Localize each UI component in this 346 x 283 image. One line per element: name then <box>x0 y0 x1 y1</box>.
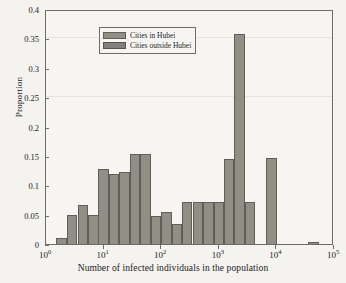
x-tick-mark <box>160 245 161 249</box>
histogram-bar <box>88 215 98 244</box>
legend-item-cities-outside-hubei: Cities outside Hubei <box>103 41 191 50</box>
y-tick-mark <box>45 128 49 129</box>
histogram-bar <box>203 202 213 244</box>
x-tick-mark <box>275 245 276 249</box>
x-tick-label: 102 <box>154 248 166 260</box>
histogram-bar <box>78 205 88 244</box>
histogram-bar <box>266 158 276 244</box>
y-tick-mark <box>45 157 49 158</box>
histogram-bar <box>234 34 244 244</box>
legend-label-cities-in-hubei: Cities in Hubei <box>130 32 175 40</box>
legend: Cities in Hubei Cities outside Hubei <box>99 27 196 54</box>
legend-label-cities-outside-hubei: Cities outside Hubei <box>130 42 191 50</box>
y-tick-label: 0.25 <box>24 94 39 102</box>
x-tick-label: 103 <box>212 248 224 260</box>
histogram-bar <box>109 174 119 244</box>
y-tick-label: 0.4 <box>28 6 39 14</box>
x-tick-label: 100 <box>39 248 51 260</box>
y-tick-mark <box>45 245 49 246</box>
y-tick-label: 0.2 <box>28 124 39 132</box>
y-tick-mark <box>45 39 49 40</box>
legend-item-cities-in-hubei: Cities in Hubei <box>103 31 191 40</box>
histogram-bar <box>214 202 224 244</box>
histogram-bar <box>172 224 182 244</box>
y-tick-mark <box>45 186 49 187</box>
histogram-bar <box>151 216 161 244</box>
y-tick-mark <box>45 10 49 11</box>
y-tick-label: 0.35 <box>24 35 39 43</box>
x-tick-mark <box>333 245 334 249</box>
y-tick-mark <box>45 216 49 217</box>
y-tick-mark <box>45 69 49 70</box>
legend-swatch-cities-outside-hubei <box>103 42 126 49</box>
x-tick-label: 104 <box>269 248 281 260</box>
histogram-bar <box>67 215 77 244</box>
histogram-bar <box>193 202 203 244</box>
histogram-bar <box>130 154 140 244</box>
histogram-bar <box>140 154 150 244</box>
x-tick-mark <box>103 245 104 249</box>
y-axis-tick-labels: 00.050.10.150.20.250.30.350.4 <box>0 0 45 255</box>
y-tick-label: 0.1 <box>28 182 39 190</box>
plot-area: Cities in Hubei Cities outside Hubei <box>45 10 333 245</box>
histogram-bar <box>245 202 255 244</box>
histogram-bar <box>224 159 234 244</box>
histogram-bar <box>182 202 192 244</box>
histogram-bar <box>119 172 129 244</box>
gridline <box>46 96 332 97</box>
legend-swatch-cities-in-hubei <box>103 32 126 39</box>
y-tick-label: 0.05 <box>24 212 39 220</box>
x-axis-title: Number of infected individuals in the po… <box>0 263 346 273</box>
histogram-bar <box>56 238 66 244</box>
histogram-bar <box>98 169 108 244</box>
histogram-bar <box>308 242 318 244</box>
y-tick-mark <box>45 98 49 99</box>
figure: Proportion 00.050.10.150.20.250.30.350.4… <box>0 0 346 283</box>
histogram-bar <box>161 212 171 244</box>
y-tick-label: 0.15 <box>24 153 39 161</box>
x-tick-label: 101 <box>96 248 108 260</box>
y-tick-label: 0.3 <box>28 65 39 73</box>
x-tick-label: 105 <box>327 248 339 260</box>
x-tick-mark <box>218 245 219 249</box>
